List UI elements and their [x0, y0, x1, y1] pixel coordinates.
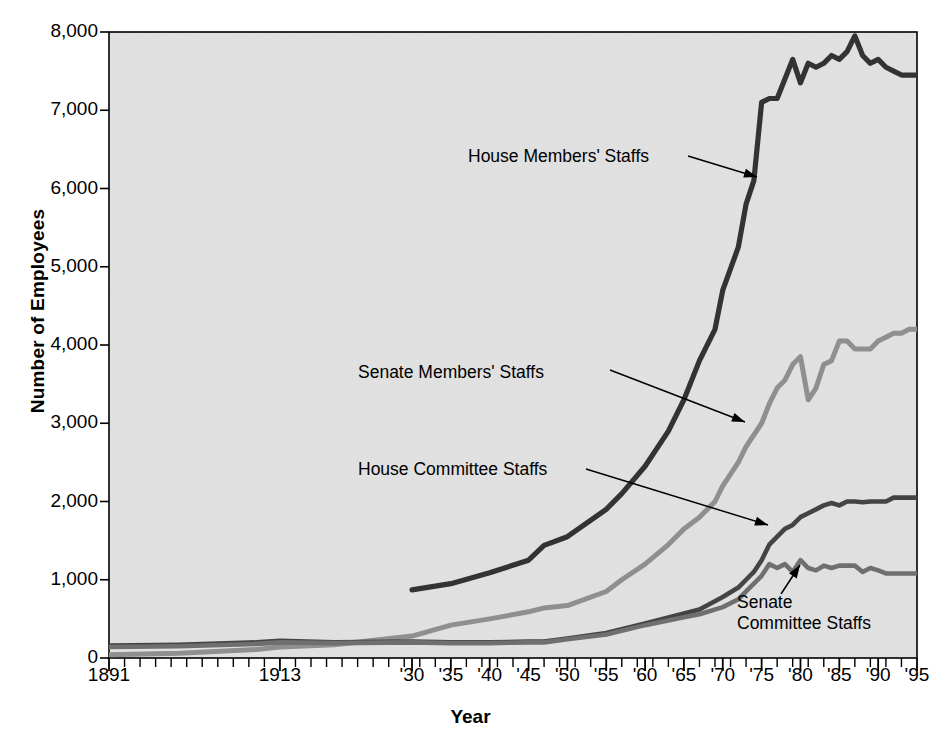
- y-axis-title: Number of Employees: [27, 181, 49, 441]
- y-tick-label: 8,000: [14, 20, 98, 42]
- annotation-senate-committee-line1: Senate: [737, 592, 871, 613]
- y-tick-label: 3,000: [14, 411, 98, 433]
- x-axis-title: Year: [0, 706, 941, 728]
- annotation-senate-committee-line2: Committee Staffs: [737, 613, 871, 634]
- annotation-house-members-staffs: House Members' Staffs: [468, 146, 649, 167]
- x-tick-label: '95: [877, 664, 941, 686]
- y-tick-label: 4,000: [14, 333, 98, 355]
- x-tick-label: 1891: [69, 664, 149, 686]
- annotation-senate-committee-staffs: Senate Committee Staffs: [737, 592, 871, 633]
- y-tick-label: 6,000: [14, 177, 98, 199]
- x-tick-label: 1913: [240, 664, 320, 686]
- y-tick-label: 5,000: [14, 255, 98, 277]
- y-tick-label: 1,000: [14, 568, 98, 590]
- y-tick-label: 7,000: [14, 98, 98, 120]
- annotation-senate-members-staffs: Senate Members' Staffs: [358, 362, 544, 383]
- annotation-house-committee-staffs: House Committee Staffs: [358, 459, 547, 480]
- y-tick-label: 2,000: [14, 490, 98, 512]
- chart-figure: Number of Employees Year 01,0002,0003,00…: [0, 0, 941, 742]
